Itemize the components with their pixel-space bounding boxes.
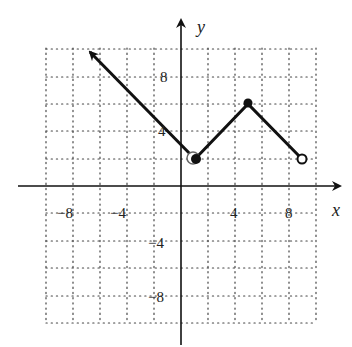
closed-point-1-2 (191, 154, 201, 164)
y-tick-4-partial: 4 (158, 123, 166, 139)
left-ray (90, 52, 195, 159)
x-tick-neg8: −8 (57, 205, 73, 221)
x-axis-label: x (331, 200, 340, 220)
x-tick-4: 4 (230, 205, 238, 221)
y-tick-neg4: −4 (148, 235, 164, 251)
y-tick-8: 8 (160, 69, 168, 85)
y-axis-label: y (195, 17, 205, 37)
coordinate-plane: y x −8 −4 4 8 8 −4 −8 4 (0, 0, 352, 347)
y-tick-neg8: −8 (148, 289, 164, 305)
x-tick-neg4: −4 (110, 205, 126, 221)
open-point-9-2 (298, 155, 307, 164)
closed-point-5-6 (244, 99, 253, 108)
x-tick-8: 8 (285, 205, 293, 221)
